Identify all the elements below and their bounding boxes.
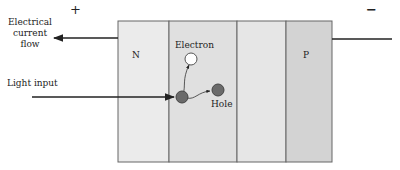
hole-icon (212, 84, 224, 96)
n-region (118, 21, 169, 162)
p-region (286, 21, 332, 162)
current-flow-line1: Electrical (6, 17, 54, 28)
current-flow-line3: flow (6, 39, 54, 50)
n-region-label: N (132, 50, 140, 61)
intrinsic-region (237, 21, 286, 162)
minus-terminal-label: − (366, 4, 377, 15)
plus-terminal-label: + (70, 4, 81, 15)
electron-label: Electron (175, 40, 214, 51)
current-flow-line2: current (6, 28, 54, 39)
hole-label: Hole (211, 99, 232, 110)
p-region-label: P (303, 50, 309, 61)
electron-icon (185, 53, 197, 65)
current-flow-label: Electrical current flow (6, 17, 54, 50)
photodiode-diagram (0, 0, 400, 170)
light-input-label: Light input (7, 78, 58, 89)
generation-point-icon (176, 91, 188, 103)
